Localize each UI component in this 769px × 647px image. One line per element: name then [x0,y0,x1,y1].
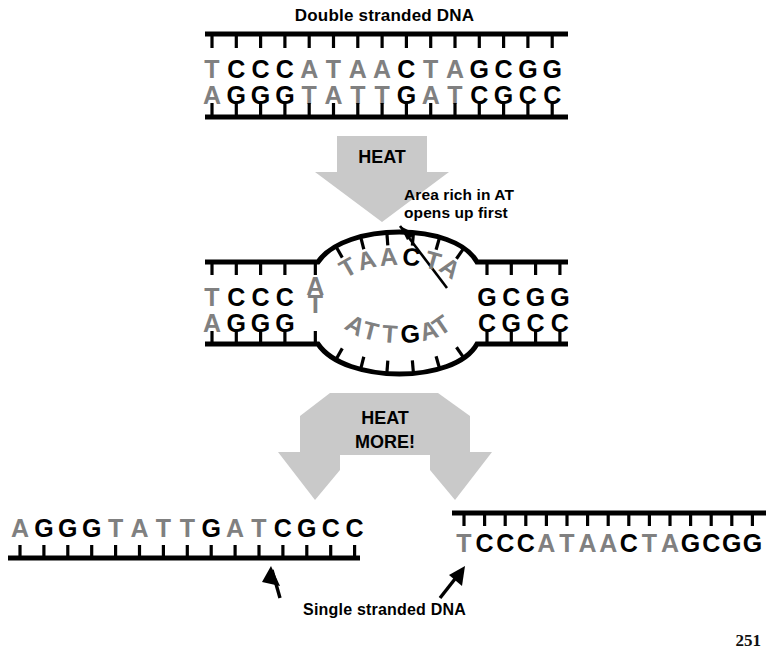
base-letter-C: C [702,529,720,557]
base-letter-A: A [379,242,399,271]
base-letters-single-right: TCCCATAACTAGCGG [456,529,762,557]
page-number: 251 [736,631,762,647]
base-letter-G: G [470,55,489,83]
base-letter-T: T [381,319,398,348]
base-letter-T: T [308,290,323,318]
single-strand-right: TCCCATAACTAGCGG [452,513,766,557]
caption-arrow-left [262,566,280,598]
base-letter-C: C [517,529,535,557]
rung-tick [361,357,364,370]
base-letter-T: T [456,529,471,557]
base-letter-A: A [661,529,679,557]
rung-tick [436,356,440,369]
heat-more-arrow-label-line2: MORE! [355,432,415,452]
base-letter-A: A [349,55,367,83]
base-letter-A: A [599,529,617,557]
base-letter-A: A [373,55,391,83]
dna-denaturation-figure: Double stranded DNA Area rich in ATopens… [0,0,769,647]
base-letter-C: C [397,55,415,83]
base-letter-C: C [401,242,421,271]
base-letters-single-left: AGGGTATTGATCGCC [11,514,364,542]
base-letters-bubble: TACGCGCGGCCGGCGCATAACTATATTGAT [203,242,570,349]
base-letter-G: G [722,529,741,557]
base-letter-A: A [226,514,244,542]
base-letter-C: C [476,529,494,557]
dna-diagram-svg: TCCCATAACTAGCGG AGGGTATTGATCGCC HEAT TAC… [0,0,769,647]
base-letter-G: G [297,514,316,542]
base-letter-G: G [518,55,537,83]
caption-arrows [262,566,465,598]
base-letter-T: T [156,514,171,542]
base-letter-C: C [502,283,520,311]
base-letter-C: C [478,309,496,337]
base-letter-G: G [227,309,246,337]
base-letter-C: C [227,283,245,311]
base-letter-A: A [130,514,148,542]
base-letter-C: C [252,55,270,83]
base-letter-C: C [620,529,638,557]
heat-more-arrow: HEAT MORE! [278,393,492,500]
annotation-line: opens up first [404,204,508,221]
base-letter-T: T [204,55,219,83]
base-letter-C: C [252,283,270,311]
base-letter-G: G [82,514,101,542]
base-letter-C: C [495,55,513,83]
base-letter-G: G [526,283,545,311]
base-letter-T: T [326,55,341,83]
base-letter-T: T [423,55,438,83]
base-letter-G: G [743,529,762,557]
caption-arrow-right [440,566,465,598]
base-letter-A: A [537,529,555,557]
base-letter-G: G [201,514,220,542]
base-letter-G: G [681,529,700,557]
base-letter-G: G [477,283,496,311]
base-letter-C: C [227,55,245,83]
base-letter-C: C [551,309,569,337]
base-letter-G: G [58,514,77,542]
caption-single-stranded: Single stranded DNA [0,601,769,619]
base-letter-T: T [204,283,219,311]
rung-tick [387,361,388,374]
duplex-bubble: TACGCGCGGCCGGCGCATAACTATATTGAT [203,232,570,374]
base-letter-G: G [251,309,270,337]
base-letter-C: C [276,55,294,83]
rung-tick [336,348,342,359]
base-letter-C: C [276,283,294,311]
single-strand-left: AGGGTATTGATCGCC [8,514,364,558]
base-letter-C: C [346,514,364,542]
base-letter-A: A [579,529,597,557]
rung-tick [456,347,463,358]
base-letter-T: T [108,514,123,542]
annotation-line: Area rich in AT [404,186,514,203]
page-title: Double stranded DNA [0,6,769,26]
base-letter-T: T [251,514,266,542]
duplex-top: TCCCATAACTAGCGG AGGGTATTGATCGCC [203,34,568,117]
base-letters-top-strand: TCCCATAACTAGCGG [204,55,562,83]
base-letter-G: G [542,55,561,83]
base-letter-G: G [550,283,569,311]
base-letter-G: G [34,514,53,542]
base-letter-A: A [300,55,318,83]
base-letter-G: G [275,309,294,337]
annotation-at-rich-label: Area rich in ATopens up first [404,186,514,222]
base-letter-C: C [496,529,514,557]
base-letter-C: C [322,514,340,542]
base-letter-T: T [559,529,574,557]
base-letter-C: C [527,309,545,337]
base-letter-A: A [203,309,221,337]
base-letter-T: T [642,529,657,557]
rung-tick [412,360,413,373]
base-letter-A: A [11,514,29,542]
base-letter-T: T [180,514,195,542]
base-letter-A: A [446,55,464,83]
base-letter-C: C [274,514,292,542]
base-letter-G: G [502,309,521,337]
heat-more-arrow-label-line1: HEAT [361,408,409,428]
heat-arrow-label: HEAT [358,147,406,167]
